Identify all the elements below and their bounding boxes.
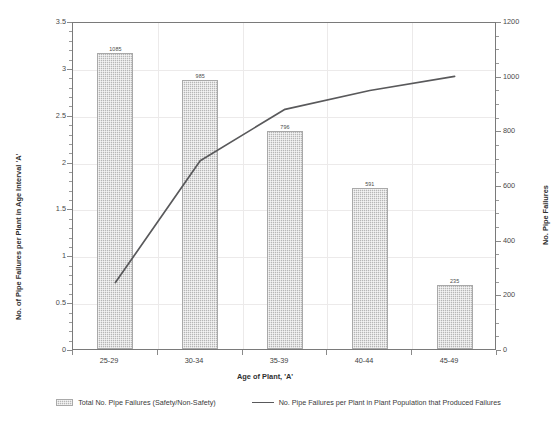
bar-label-25-29: 1085 bbox=[85, 46, 145, 52]
x-axis-category-label: 40-44 bbox=[329, 356, 399, 365]
y-left-tick-minor bbox=[69, 341, 72, 342]
x-axis-category-label: 45-49 bbox=[414, 356, 484, 365]
y-left-tick-minor bbox=[69, 106, 72, 107]
y-left-tick-major bbox=[67, 256, 72, 257]
y-right-tick-minor bbox=[496, 254, 499, 255]
bar-label-30-34: 985 bbox=[170, 73, 230, 79]
y-right-tick-minor bbox=[496, 268, 499, 269]
y-right-tick-minor bbox=[496, 323, 499, 324]
y-left-tick-minor bbox=[69, 191, 72, 192]
x-axis-category-label: 35-39 bbox=[244, 356, 314, 365]
y-left-tick-minor bbox=[69, 322, 72, 323]
y-right-tick-minor bbox=[496, 63, 499, 64]
y-axis-left-tick: 1 bbox=[26, 251, 66, 260]
y-axis-right-tick: 800 bbox=[503, 126, 543, 135]
y-left-tick-minor bbox=[69, 88, 72, 89]
y-axis-left-tick: 3.5 bbox=[26, 17, 66, 26]
y-axis-left-tick: 2 bbox=[26, 158, 66, 167]
y-left-tick-minor bbox=[69, 219, 72, 220]
y-left-tick-minor bbox=[69, 294, 72, 295]
y-left-tick-minor bbox=[69, 172, 72, 173]
y-axis-right-tick: 400 bbox=[503, 236, 543, 245]
y-right-tick-minor bbox=[496, 49, 499, 50]
x-axis-category-label: 30-34 bbox=[159, 356, 229, 365]
y-left-tick-minor bbox=[69, 41, 72, 42]
x-axis-title: Age of Plant, 'A' bbox=[237, 372, 293, 381]
chart-legend: Total No. Pipe Failures (Safety/Non-Safe… bbox=[0, 392, 557, 412]
plot-area: 1085 985 796 591 235 bbox=[72, 22, 496, 350]
y-right-tick-major bbox=[496, 22, 501, 23]
y-axis-right-tick: 0 bbox=[503, 345, 543, 354]
legend-label: No. Pipe Failures per Plant in Plant Pop… bbox=[279, 398, 501, 407]
y-right-tick-minor bbox=[496, 309, 499, 310]
y-axis-right-tick: 600 bbox=[503, 181, 543, 190]
y-right-tick-minor bbox=[496, 336, 499, 337]
x-axis-category-label: 25-29 bbox=[74, 356, 144, 365]
y-right-tick-minor bbox=[496, 159, 499, 160]
y-axis-right-tick: 1000 bbox=[503, 72, 543, 81]
y-left-tick-major bbox=[67, 116, 72, 117]
y-left-tick-major bbox=[67, 163, 72, 164]
legend-item-bar-series[interactable]: Total No. Pipe Failures (Safety/Non-Safe… bbox=[56, 398, 215, 407]
chart-figure: No. of Pipe Failures per Plant in Age In… bbox=[0, 0, 557, 421]
y-right-tick-major bbox=[496, 77, 501, 78]
y-left-tick-minor bbox=[69, 181, 72, 182]
y-right-tick-minor bbox=[496, 200, 499, 201]
y-axis-right-tick: 200 bbox=[503, 290, 543, 299]
y-left-tick-minor bbox=[69, 135, 72, 136]
y-left-tick-minor bbox=[69, 78, 72, 79]
y-left-tick-minor bbox=[69, 31, 72, 32]
y-right-tick-major bbox=[496, 350, 501, 351]
y-left-tick-minor bbox=[69, 275, 72, 276]
y-axis-right-tick: 1200 bbox=[503, 17, 543, 26]
y-left-tick-minor bbox=[69, 266, 72, 267]
y-right-tick-minor bbox=[496, 118, 499, 119]
y-right-tick-minor bbox=[496, 145, 499, 146]
y-left-tick-minor bbox=[69, 238, 72, 239]
y-right-tick-minor bbox=[496, 104, 499, 105]
y-right-tick-major bbox=[496, 186, 501, 187]
line-swatch-icon bbox=[252, 402, 274, 403]
y-left-tick-major bbox=[67, 209, 72, 210]
y-right-tick-minor bbox=[496, 282, 499, 283]
y-right-tick-major bbox=[496, 241, 501, 242]
y-left-tick-minor bbox=[69, 97, 72, 98]
legend-item-line-series[interactable]: No. Pipe Failures per Plant in Plant Pop… bbox=[252, 398, 501, 407]
y-left-tick-major bbox=[67, 303, 72, 304]
y-right-tick-minor bbox=[496, 36, 499, 37]
y-left-tick-major bbox=[67, 350, 72, 351]
y-right-tick-major bbox=[496, 295, 501, 296]
y-left-tick-major bbox=[67, 22, 72, 23]
y-right-tick-minor bbox=[496, 90, 499, 91]
y-left-tick-minor bbox=[69, 200, 72, 201]
bar-swatch-icon bbox=[56, 399, 73, 406]
y-left-tick-minor bbox=[69, 144, 72, 145]
y-left-tick-minor bbox=[69, 60, 72, 61]
y-right-tick-minor bbox=[496, 213, 499, 214]
y-axis-left-tick: 1.5 bbox=[26, 204, 66, 213]
y-left-tick-minor bbox=[69, 331, 72, 332]
y-left-tick-minor bbox=[69, 228, 72, 229]
bar-data-labels: 1085 985 796 591 235 bbox=[73, 23, 495, 349]
y-axis-left-tick: 3 bbox=[26, 64, 66, 73]
y-right-tick-minor bbox=[496, 172, 499, 173]
legend-label: Total No. Pipe Failures (Safety/Non-Safe… bbox=[78, 398, 215, 407]
y-axis-left-title: No. of Pipe Failures per Plant in Age In… bbox=[14, 154, 23, 320]
y-left-tick-minor bbox=[69, 247, 72, 248]
y-left-tick-minor bbox=[69, 313, 72, 314]
y-left-tick-major bbox=[67, 69, 72, 70]
bar-label-35-39: 796 bbox=[255, 124, 315, 130]
y-left-tick-minor bbox=[69, 284, 72, 285]
y-right-tick-major bbox=[496, 131, 501, 132]
y-right-tick-minor bbox=[496, 227, 499, 228]
bar-label-45-49: 235 bbox=[425, 278, 485, 284]
y-axis-left-tick: 0 bbox=[26, 345, 66, 354]
y-axis-left-tick: 0.5 bbox=[26, 298, 66, 307]
y-axis-left-tick: 2.5 bbox=[26, 111, 66, 120]
y-left-tick-minor bbox=[69, 125, 72, 126]
y-left-tick-minor bbox=[69, 50, 72, 51]
y-left-tick-minor bbox=[69, 153, 72, 154]
bar-label-40-44: 591 bbox=[340, 181, 400, 187]
